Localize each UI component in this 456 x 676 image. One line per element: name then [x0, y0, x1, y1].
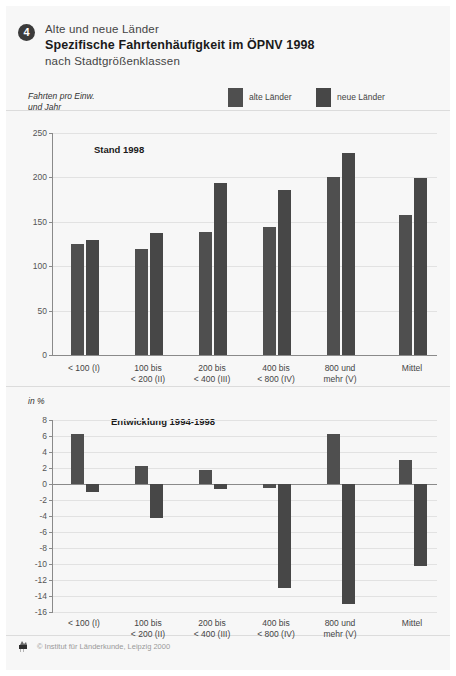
legend-swatch-alte-laender [228, 88, 243, 107]
supertitle: Alte und neue Länder [45, 22, 442, 37]
y-axis-tick [49, 516, 53, 517]
title-block: Alte und neue Länder Spezifische Fahrten… [45, 22, 442, 69]
bar [278, 190, 291, 355]
bar [135, 249, 148, 355]
x-axis-category-label: Mittel [372, 618, 452, 629]
x-axis-category-label: 800 undmehr (V) [300, 618, 380, 640]
bar [199, 470, 212, 484]
y-axis-tick-label: 150 [33, 217, 47, 227]
bar [150, 233, 163, 355]
y-axis-tick [49, 177, 53, 178]
y-axis-tick [49, 532, 53, 533]
subtitle: nach Stadtgrößenklassen [45, 54, 442, 69]
y-axis-tick-label: -12 [35, 575, 47, 585]
y-axis-tick [49, 548, 53, 549]
bar [342, 484, 355, 604]
bar [214, 484, 227, 489]
plot-area-entwicklung: 86420-2-4-6-8-10-12-14-16 [52, 420, 437, 612]
legend-label-neue-laender: neue Länder [337, 92, 385, 102]
gridline [53, 532, 437, 533]
y-axis-tick [49, 612, 53, 613]
gridline [53, 596, 437, 597]
y-axis-tick-label: 4 [42, 447, 47, 457]
y-axis-tick [49, 596, 53, 597]
page-title: Spezifische Fahrtenhäufigkeit im ÖPNV 19… [45, 37, 442, 54]
y-axis-tick [49, 133, 53, 134]
bar [199, 232, 212, 355]
bar [214, 183, 227, 355]
bar [86, 240, 99, 355]
gridline [53, 420, 437, 421]
legend-swatch-neue-laender [316, 88, 331, 107]
bar [86, 484, 99, 492]
y-axis-tick [49, 564, 53, 565]
bar [327, 434, 340, 484]
gridline [53, 612, 437, 613]
y-axis-tick [49, 484, 53, 485]
bar [399, 460, 412, 484]
y-axis-tick-label: 100 [33, 261, 47, 271]
poster-page: 4 Alte und neue Länder Spezifische Fahrt… [6, 6, 450, 670]
y-axis-tick-label: 2 [42, 463, 47, 473]
figure-number-badge: 4 [18, 24, 35, 41]
y-axis-tick-label: -8 [39, 543, 47, 553]
y-axis-label-top: Fahrten pro Einw.und Jahr [28, 91, 95, 113]
y-axis-tick-label: -4 [39, 511, 47, 521]
gridline [53, 311, 437, 312]
y-axis-tick-label: 0 [42, 350, 47, 360]
y-axis-tick [49, 468, 53, 469]
bar [414, 484, 427, 566]
bar [342, 153, 355, 355]
bar [71, 434, 84, 484]
y-axis-tick [49, 222, 53, 223]
plot-area-stand-1998: 050100150200250 [52, 133, 437, 355]
gridline [53, 355, 437, 356]
gridline [53, 468, 437, 469]
chart-header: 4 Alte und neue Länder Spezifische Fahrt… [6, 22, 450, 84]
y-axis-label-bottom: in % [28, 396, 45, 407]
y-axis-tick-label: 250 [33, 128, 47, 138]
y-axis-tick-label: 200 [33, 172, 47, 182]
gridline [53, 177, 437, 178]
y-axis-tick-label: -6 [39, 527, 47, 537]
gridline [53, 500, 437, 501]
x-axis-category-label: 800 undmehr (V) [300, 363, 380, 385]
y-axis-tick [49, 266, 53, 267]
footer-credit: © Institut für Länderkunde, Leipzig 2000 [37, 642, 170, 651]
bar [71, 244, 84, 355]
y-axis-tick [49, 500, 53, 501]
bar [135, 466, 148, 484]
bar [414, 178, 427, 355]
gridline [53, 266, 437, 267]
bar [263, 484, 276, 488]
legend-label-alte-laender: alte Länder [249, 92, 292, 102]
y-axis-tick-label: 6 [42, 431, 47, 441]
gridline [53, 564, 437, 565]
y-axis-tick [49, 452, 53, 453]
bar [263, 227, 276, 355]
y-axis-tick-label: 50 [38, 306, 47, 316]
gridline [53, 580, 437, 581]
y-axis-tick [49, 420, 53, 421]
y-axis-tick-label: -16 [35, 607, 47, 617]
x-axis-category-label: Mittel [372, 363, 452, 374]
chart-panel-stand-1998: Fahrten pro Einw.und Jahr Stand 1998 050… [6, 110, 450, 387]
gridline [53, 133, 437, 134]
bar [327, 177, 340, 355]
y-axis-tick [49, 436, 53, 437]
y-axis-tick [49, 580, 53, 581]
institute-logo-icon [18, 640, 31, 653]
chart-panel-entwicklung: in % Entwicklung 1994-1998 86420-2-4-6-8… [6, 392, 450, 636]
y-axis-tick-label: -14 [35, 591, 47, 601]
bar [399, 215, 412, 355]
gridline [53, 484, 437, 485]
gridline [53, 222, 437, 223]
y-axis-tick-label: -10 [35, 559, 47, 569]
y-axis-tick-label: 0 [42, 479, 47, 489]
bar [278, 484, 291, 588]
y-axis-tick-label: 8 [42, 415, 47, 425]
gridline [53, 452, 437, 453]
y-axis-tick-label: -2 [39, 495, 47, 505]
y-axis-tick [49, 311, 53, 312]
gridline [53, 548, 437, 549]
